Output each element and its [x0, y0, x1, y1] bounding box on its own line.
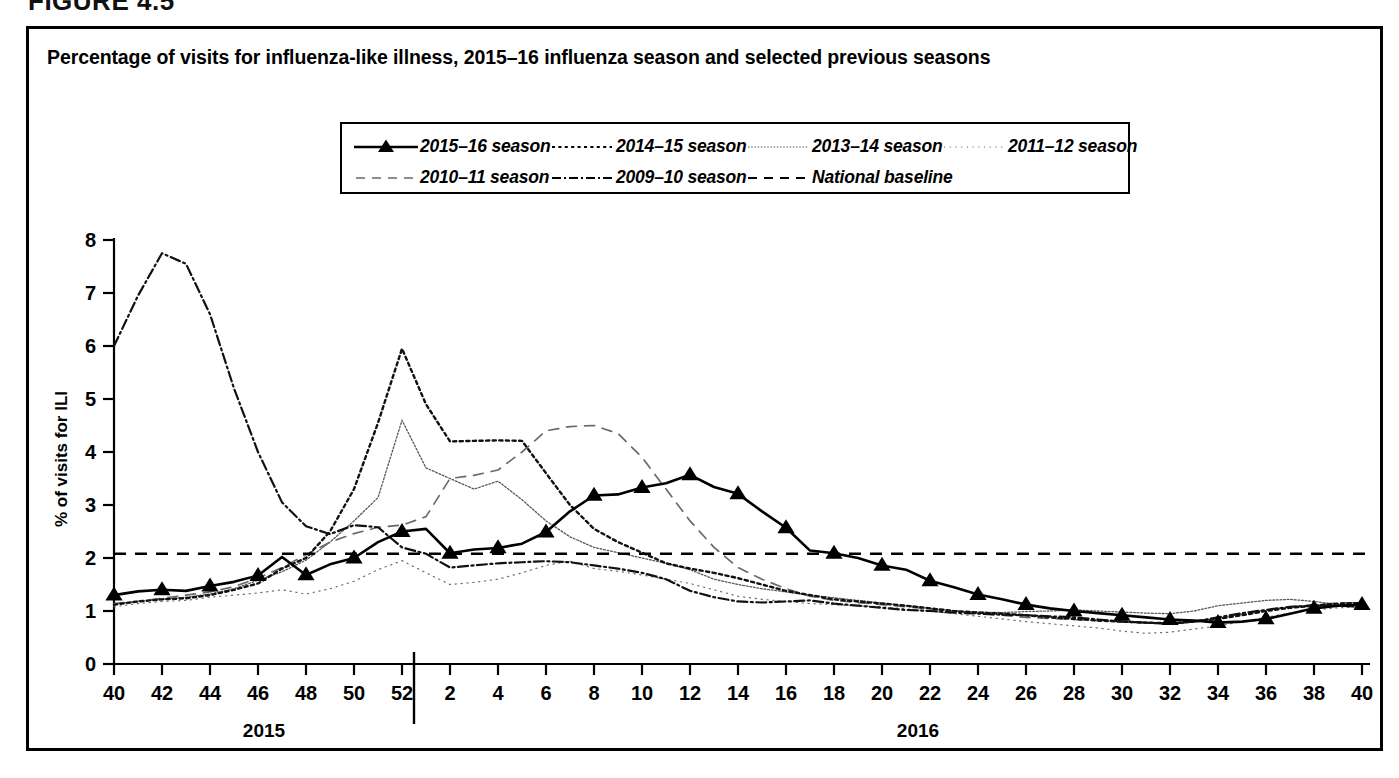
x-tick-label: 32: [1159, 682, 1181, 704]
y-tick-label: 6: [85, 335, 96, 357]
y-tick-label: 2: [85, 547, 96, 569]
x-tick-label: 22: [919, 682, 941, 704]
year-label-left: 2015: [243, 720, 286, 741]
plot-area: 012345678% of visits for ILI404244464850…: [29, 29, 1386, 754]
x-tick-label: 12: [679, 682, 701, 704]
figure-page: FIGURE 4.5 Percentage of visits for infl…: [0, 0, 1399, 778]
x-tick-label: 52: [391, 682, 413, 704]
y-tick-label: 5: [85, 388, 96, 410]
x-tick-label: 16: [775, 682, 797, 704]
series-marker-triangle: [681, 466, 698, 480]
x-tick-label: 14: [727, 682, 750, 704]
x-tick-label: 36: [1255, 682, 1277, 704]
x-tick-label: 40: [103, 682, 125, 704]
x-tick-label: 42: [151, 682, 173, 704]
x-tick-label: 46: [247, 682, 269, 704]
series-marker-triangle: [777, 519, 794, 533]
x-tick-label: 6: [540, 682, 551, 704]
x-tick-label: 28: [1063, 682, 1085, 704]
x-tick-label: 4: [492, 682, 504, 704]
x-tick-label: 40: [1351, 682, 1373, 704]
y-tick-label: 0: [85, 653, 96, 675]
series-dotted-fine: [114, 420, 1362, 613]
x-tick-label: 24: [967, 682, 990, 704]
x-tick-label: 34: [1207, 682, 1230, 704]
x-tick-label: 20: [871, 682, 893, 704]
chart-panel: Percentage of visits for influenza-like …: [26, 26, 1383, 751]
year-label-right: 2016: [897, 720, 939, 741]
y-tick-label: 8: [85, 229, 96, 251]
series-marker-triangle: [153, 581, 170, 595]
series-marker-triangle: [249, 567, 266, 581]
x-tick-label: 18: [823, 682, 845, 704]
y-axis-title: % of visits for ILI: [52, 391, 71, 527]
series-marker-triangle: [585, 487, 602, 501]
x-tick-label: 26: [1015, 682, 1037, 704]
y-tick-label: 3: [85, 494, 96, 516]
x-tick-label: 38: [1303, 682, 1325, 704]
y-tick-label: 1: [85, 600, 96, 622]
x-tick-label: 44: [199, 682, 222, 704]
x-tick-label: 2: [444, 682, 455, 704]
x-tick-label: 30: [1111, 682, 1133, 704]
x-tick-label: 10: [631, 682, 653, 704]
x-tick-label: 48: [295, 682, 317, 704]
y-tick-label: 4: [85, 441, 97, 463]
x-tick-label: 8: [588, 682, 599, 704]
series-dashed-long: [114, 426, 1362, 624]
plot-svg: 012345678% of visits for ILI404244464850…: [29, 29, 1386, 754]
x-tick-label: 50: [343, 682, 365, 704]
series-marker-triangle: [345, 549, 362, 563]
figure-number-label: FIGURE 4.5: [28, 0, 175, 12]
y-tick-label: 7: [85, 282, 96, 304]
